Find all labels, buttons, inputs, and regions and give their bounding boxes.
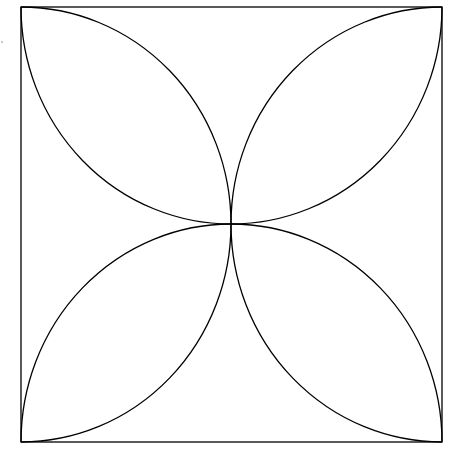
petal-bottom-right — [231, 224, 442, 442]
petal-bottom-left — [21, 224, 231, 442]
petal-top-right — [231, 7, 442, 224]
petal-top-right-lower-arc — [231, 7, 442, 224]
diagram-canvas — [0, 0, 460, 462]
petal-bottom-left-lower-arc — [21, 224, 231, 442]
petal-top-left-lower-arc — [21, 7, 231, 224]
petal-top-left-upper-arc — [21, 7, 231, 224]
petal-bottom-left-upper-arc — [21, 224, 231, 442]
petal-bottom-right-lower-arc — [231, 224, 442, 442]
petal-bottom-right-upper-arc — [231, 224, 442, 442]
stray-mark — [1, 41, 3, 43]
petal-top-right-upper-arc — [231, 7, 442, 224]
petal-top-left — [21, 7, 231, 224]
